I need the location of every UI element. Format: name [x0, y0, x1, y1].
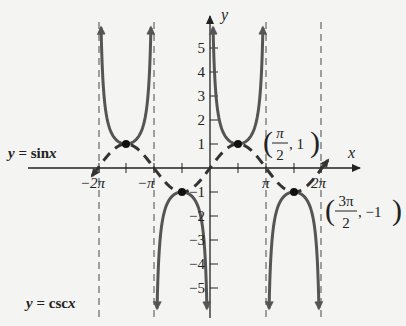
svg-text:): ): [392, 193, 402, 227]
svg-text:2: 2: [276, 147, 284, 163]
svg-text:(: (: [325, 193, 335, 227]
csc-branch-2: [238, 28, 263, 144]
svg-text:3π: 3π: [338, 193, 354, 209]
csc-branch-1: [157, 192, 182, 308]
svg-text:−2: −2: [189, 208, 205, 224]
svg-text:−5: −5: [189, 280, 205, 296]
svg-text:2: 2: [198, 112, 206, 128]
svg-text:, 1: , 1: [289, 136, 304, 152]
svg-text:(: (: [263, 125, 273, 159]
svg-text:−1: −1: [189, 184, 205, 200]
csc-branch-0: [126, 28, 151, 144]
svg-text:4: 4: [198, 64, 206, 80]
svg-text:, −1: , −1: [358, 204, 381, 220]
csc-branch-3: [294, 192, 319, 308]
svg-text:2: 2: [342, 215, 350, 231]
y-axis-label: y: [219, 6, 229, 24]
svg-text:3: 3: [198, 88, 206, 104]
annotation-pi-over-2: ( π 2 , 1 ): [263, 125, 320, 163]
tick-negpi: −π: [137, 175, 155, 191]
sin-equation-label: y = sinx: [6, 145, 57, 161]
csc-equation-label: y = cscx: [24, 295, 76, 311]
tick-neg2pi: −2π: [80, 175, 106, 191]
svg-text:−4: −4: [189, 256, 205, 272]
point-neg3pi2: [122, 140, 130, 148]
point-pi2: [234, 140, 242, 148]
svg-text:1: 1: [198, 136, 206, 152]
svg-text:π: π: [276, 125, 284, 141]
annotation-3pi-over-2: ( 3π 2 , −1 ): [325, 193, 402, 231]
svg-text:): ): [310, 125, 320, 159]
csc-branch-0: [101, 28, 126, 144]
point-negpi2: [178, 188, 186, 196]
svg-text:−3: −3: [189, 232, 205, 248]
tick-2pi: 2π: [311, 175, 327, 191]
csc-branch-2: [213, 28, 238, 144]
csc-sin-graph: y x 5 4 3 2 1 −1 −2 −3 −4 −5 −2π −π π 2π…: [0, 0, 406, 326]
svg-text:5: 5: [198, 40, 206, 56]
sine-arrow-0: [326, 160, 328, 163]
tick-pi: π: [262, 175, 270, 191]
point-3pi2: [290, 188, 298, 196]
csc-branch-3: [269, 192, 294, 308]
x-axis-label: x: [347, 144, 355, 161]
